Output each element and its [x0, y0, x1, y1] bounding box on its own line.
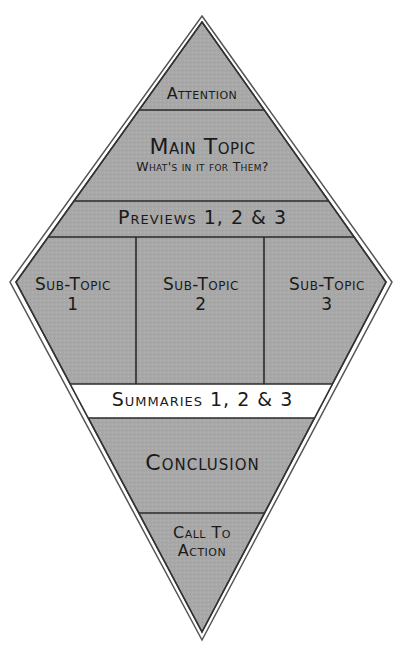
sub-topic-2-number: 2: [138, 295, 264, 315]
section-conclusion: Conclusion: [110, 451, 295, 474]
section-previews: Previews 1, 2 & 3: [60, 208, 345, 228]
section-sub-topic-2: Sub-Topic 2: [138, 275, 264, 314]
section-call-to-action: Call To Action: [152, 524, 252, 561]
sub-topic-3-label: Sub-Topic: [264, 275, 390, 295]
section-attention: Attention: [152, 86, 252, 103]
sub-topic-2-label: Sub-Topic: [138, 275, 264, 295]
section-sub-topic-3: Sub-Topic 3: [264, 275, 390, 314]
section-main-topic: Main Topic: [100, 135, 305, 158]
section-sub-topic-1: Sub-Topic 1: [10, 275, 136, 314]
sub-topic-1-label: Sub-Topic: [10, 275, 136, 295]
sub-topic-1-number: 1: [10, 295, 136, 315]
section-main-topic-subtitle: What's in it for Them?: [100, 160, 305, 173]
call-to-action-line1: Call To: [152, 524, 252, 542]
sub-topic-3-number: 3: [264, 295, 390, 315]
section-summaries: Summaries 1, 2 & 3: [90, 390, 315, 410]
call-to-action-line2: Action: [152, 542, 252, 560]
